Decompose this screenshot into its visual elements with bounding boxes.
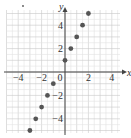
y-tick-label: 4 [58, 20, 63, 31]
data-point [68, 46, 73, 51]
data-point [74, 35, 79, 40]
data-point [80, 23, 85, 28]
data-point [39, 105, 44, 110]
y-tick-label: −4 [52, 113, 63, 124]
data-point [33, 116, 38, 121]
y-tick-label: −2 [52, 90, 63, 101]
data-point [51, 81, 56, 86]
data-point [86, 11, 91, 16]
data-point [63, 58, 68, 63]
y-tick-label: 2 [58, 43, 63, 54]
x-axis-label: x [126, 67, 131, 78]
x-tick-label: −2 [36, 72, 47, 83]
x-tick-label: 0 [58, 72, 63, 83]
scatter-plot: x y −4−2024−4−224 [0, 0, 131, 138]
x-tick-label: 2 [86, 72, 91, 83]
y-axis-label: y [58, 1, 64, 12]
stray-mark [22, 5, 24, 7]
x-tick-label: 4 [109, 72, 114, 83]
data-point [45, 93, 50, 98]
data-point [28, 128, 33, 133]
x-tick-label: −4 [13, 72, 24, 83]
